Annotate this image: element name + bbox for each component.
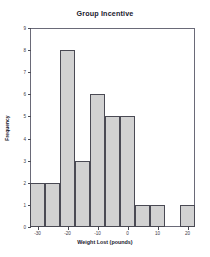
y-axis-tick-label: 5 bbox=[23, 114, 26, 119]
histogram-bar bbox=[90, 94, 105, 227]
x-axis-tick bbox=[68, 227, 69, 230]
x-axis-tick-label: 0 bbox=[126, 231, 129, 236]
histogram-figure: Group Incentive 0123456789 Frequency -30… bbox=[0, 0, 210, 257]
y-axis-tick bbox=[28, 116, 31, 117]
y-axis-tick bbox=[28, 183, 31, 184]
x-axis: -30-20-1001020 bbox=[30, 227, 195, 228]
histogram-bar bbox=[135, 205, 150, 227]
y-axis-tick-label: 8 bbox=[23, 48, 26, 53]
x-axis-tick bbox=[188, 227, 189, 230]
histogram-bar bbox=[30, 183, 45, 227]
histogram-bar bbox=[75, 161, 90, 227]
y-axis-tick bbox=[28, 72, 31, 73]
y-axis-tick-label: 6 bbox=[23, 92, 26, 97]
x-axis-tick-label: 10 bbox=[155, 231, 160, 236]
chart-title: Group Incentive bbox=[0, 9, 210, 18]
y-axis-title: Frequency bbox=[4, 115, 10, 140]
x-axis-tick bbox=[128, 227, 129, 230]
x-axis-tick bbox=[38, 227, 39, 230]
y-axis-tick-label: 2 bbox=[23, 180, 26, 185]
x-axis-title: Weight Lost (pounds) bbox=[0, 239, 210, 245]
histogram-bar bbox=[45, 183, 60, 227]
x-axis-tick bbox=[158, 227, 159, 230]
x-axis-tick bbox=[98, 227, 99, 230]
y-axis-tick bbox=[28, 139, 31, 140]
y-axis-tick bbox=[28, 94, 31, 95]
bars-layer bbox=[30, 28, 195, 227]
y-axis-tick bbox=[28, 50, 31, 51]
x-axis-tick-label: -20 bbox=[64, 231, 71, 236]
y-axis-tick-label: 4 bbox=[23, 136, 26, 141]
histogram-bar bbox=[105, 116, 120, 227]
histogram-bar bbox=[60, 50, 75, 227]
y-axis-tick bbox=[28, 28, 31, 29]
histogram-bar bbox=[120, 116, 135, 227]
y-axis-tick-label: 7 bbox=[23, 70, 26, 75]
y-axis-tick-label: 9 bbox=[23, 26, 26, 31]
y-axis-tick bbox=[28, 161, 31, 162]
y-axis: 0123456789 bbox=[30, 28, 31, 227]
y-axis-tick-label: 1 bbox=[23, 202, 26, 207]
histogram-bar bbox=[150, 205, 165, 227]
x-axis-tick-label: 20 bbox=[185, 231, 190, 236]
y-axis-tick-label: 3 bbox=[23, 158, 26, 163]
x-axis-tick-label: -10 bbox=[94, 231, 101, 236]
y-axis-tick-label: 0 bbox=[23, 225, 26, 230]
x-axis-tick-label: -30 bbox=[34, 231, 41, 236]
histogram-bar bbox=[180, 205, 195, 227]
y-axis-tick bbox=[28, 205, 31, 206]
